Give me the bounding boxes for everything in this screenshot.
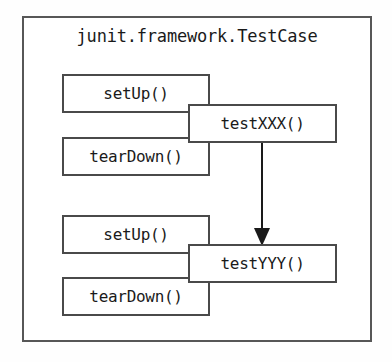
node-testxxx: testXXX()	[188, 104, 337, 143]
diagram-canvas: junit.framework.TestCase setUp() tearDow…	[0, 0, 392, 362]
node-label: setUp()	[103, 84, 168, 103]
node-label: testXXX()	[221, 114, 305, 133]
node-label: tearDown()	[89, 147, 182, 166]
node-label: tearDown()	[89, 287, 182, 306]
node-label: testYYY()	[221, 254, 305, 273]
node-label: setUp()	[103, 225, 168, 244]
node-testyyy: testYYY()	[188, 244, 337, 283]
page-title: junit.framework.TestCase	[22, 26, 372, 46]
